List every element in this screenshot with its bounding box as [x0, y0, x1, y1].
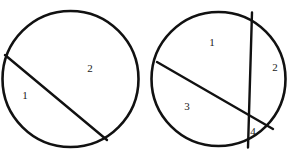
right-circle-region-1-label: 1 [209, 36, 215, 48]
right-circle-group: 1 2 3 4 [152, 12, 286, 148]
circles-diagram: 1 2 1 2 3 4 [0, 0, 289, 156]
left-circle-outline [3, 11, 139, 147]
left-circle-region-1-label: 1 [22, 89, 28, 101]
right-circle-region-2-label: 2 [272, 61, 278, 73]
right-circle-region-4-label: 4 [250, 125, 256, 137]
left-circle-group: 1 2 [3, 11, 139, 147]
right-circle-region-3-label: 3 [184, 100, 190, 112]
diagram-canvas: 1 2 1 2 3 4 [0, 0, 289, 156]
left-circle-region-2-label: 2 [87, 62, 93, 74]
